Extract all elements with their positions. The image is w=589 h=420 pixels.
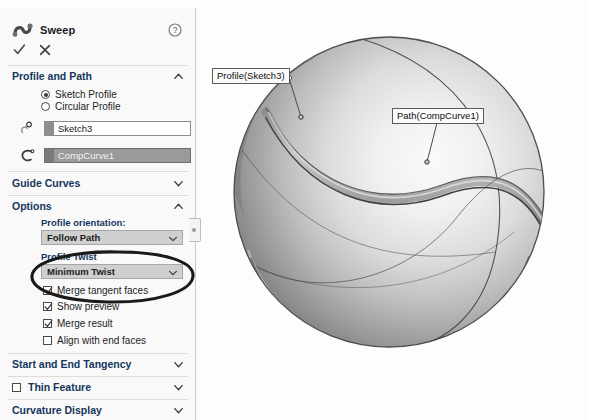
checkbox-indicator[interactable] (43, 336, 52, 345)
divider (8, 353, 188, 354)
chevron-down-icon[interactable] (174, 384, 183, 391)
divider (8, 195, 188, 196)
svg-text:?: ? (173, 25, 178, 35)
sphere-model-render[interactable] (196, 0, 589, 420)
divider (8, 399, 188, 400)
chevron-up-icon[interactable] (174, 73, 183, 80)
dialog-header: Sweep ? (0, 8, 195, 62)
section-header-thin-feature[interactable]: Thin Feature (0, 379, 196, 396)
accept-check-icon[interactable] (13, 43, 26, 56)
field-color-swatch (45, 122, 54, 135)
sweep-icon (12, 22, 34, 38)
checkbox-show-preview[interactable]: Show preview (43, 301, 119, 312)
callout-profile[interactable]: Profile(Sketch3) (212, 68, 290, 84)
graphics-viewport[interactable]: Profile(Sketch3) Path(CompCurve1) (196, 0, 589, 420)
checkbox-label: Align with end faces (57, 335, 146, 346)
checkbox-indicator[interactable] (43, 319, 52, 328)
section-header-curvature-display[interactable]: Curvature Display (0, 402, 196, 419)
path-input[interactable]: CompCurve1 (44, 148, 191, 163)
path-attach-point (425, 160, 429, 164)
chevron-down-icon[interactable] (169, 236, 177, 242)
path-selection-icon (20, 148, 37, 163)
checkbox-indicator[interactable] (43, 302, 52, 311)
section-header-profile-and-path[interactable]: Profile and Path (0, 68, 196, 85)
confirm-bar (13, 43, 51, 56)
checkbox-thin-feature[interactable] (12, 383, 21, 392)
chevron-up-icon[interactable] (174, 203, 183, 210)
checkbox-label: Merge tangent faces (57, 285, 148, 296)
help-question-icon[interactable]: ? (168, 23, 182, 37)
dialog-title-row: Sweep (12, 22, 75, 38)
radio-label: Circular Profile (55, 101, 121, 112)
profile-attach-point (299, 115, 303, 119)
divider (8, 65, 188, 66)
checkbox-merge-result[interactable]: Merge result (43, 318, 113, 329)
chevron-down-icon[interactable] (169, 270, 177, 276)
chevron-down-icon[interactable] (174, 361, 183, 368)
section-header-start-and-end-tangency[interactable]: Start and End Tangency (0, 356, 196, 373)
radio-indicator[interactable] (41, 102, 50, 111)
solidworks-sweep-screen: Profile(Sketch3) Path(CompCurve1) Sweep … (0, 0, 589, 420)
section-title-profile-and-path: Profile and Path (12, 70, 92, 82)
property-manager-panel[interactable]: Sweep ? Profile and Path (0, 8, 196, 420)
divider (8, 171, 188, 172)
page-title: Sweep (40, 24, 75, 36)
divider (8, 376, 188, 377)
section-title-thin-feature: Thin Feature (28, 381, 91, 393)
label-profile-orientation: Profile orientation: (41, 217, 125, 228)
radio-sketch-profile[interactable]: Sketch Profile (41, 89, 117, 100)
section-title-start-and-end-tangency: Start and End Tangency (12, 358, 131, 370)
checkbox-label: Merge result (57, 318, 113, 329)
select-value: Minimum Twist (47, 266, 115, 277)
section-title-curvature-display: Curvature Display (12, 404, 102, 416)
callout-path[interactable]: Path(CompCurve1) (392, 108, 484, 124)
checkbox-indicator[interactable] (43, 286, 52, 295)
panel-pin-handle[interactable] (189, 218, 201, 242)
select-value: Follow Path (47, 232, 100, 243)
chevron-down-icon[interactable] (174, 180, 183, 187)
checkbox-merge-tangent-faces[interactable]: Merge tangent faces (43, 285, 148, 296)
radio-indicator[interactable] (41, 90, 50, 99)
section-header-options[interactable]: Options (0, 198, 196, 215)
profile-input[interactable]: Sketch3 (44, 121, 191, 136)
select-profile-twist[interactable]: Minimum Twist (41, 264, 183, 279)
checkbox-label: Show preview (57, 301, 119, 312)
checkbox-align-with-end-faces[interactable]: Align with end faces (43, 335, 146, 346)
section-title-guide-curves: Guide Curves (12, 177, 80, 189)
field-color-swatch (45, 149, 54, 162)
radio-label: Sketch Profile (55, 89, 117, 100)
profile-value: Sketch3 (58, 123, 92, 134)
section-header-guide-curves[interactable]: Guide Curves (0, 175, 196, 192)
label-profile-twist: Profile Twist (41, 251, 97, 262)
chevron-down-icon[interactable] (174, 407, 183, 414)
section-title-options: Options (12, 200, 52, 212)
path-value: CompCurve1 (58, 150, 114, 161)
cancel-close-icon[interactable] (39, 44, 51, 56)
select-profile-orientation[interactable]: Follow Path (41, 230, 183, 245)
radio-circular-profile[interactable]: Circular Profile (41, 101, 121, 112)
profile-selection-icon (20, 121, 37, 136)
